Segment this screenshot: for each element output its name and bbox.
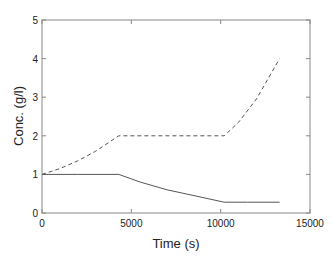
series-group: [42, 59, 280, 203]
y-tick-label: 1: [32, 169, 38, 180]
x-tick-label: 10000: [207, 218, 235, 229]
y-axis-label: Conc. (g/l): [11, 86, 26, 146]
line-chart: 012345 050001000015000 Time (s) Conc. (g…: [0, 0, 336, 260]
y-axis: 012345: [32, 15, 310, 219]
x-tick-label: 15000: [296, 218, 324, 229]
x-axis-label: Time (s): [152, 236, 199, 251]
x-tick-label: 5000: [120, 218, 143, 229]
y-tick-label: 5: [32, 15, 38, 26]
series-solid-line: [42, 174, 280, 202]
y-tick-label: 0: [32, 208, 38, 219]
series-dashed-line: [42, 59, 280, 175]
y-tick-label: 4: [32, 54, 38, 65]
x-tick-label: 0: [39, 218, 45, 229]
plot-frame: [42, 20, 310, 213]
x-axis: 050001000015000: [39, 20, 324, 229]
y-tick-label: 2: [32, 131, 38, 142]
y-tick-label: 3: [32, 92, 38, 103]
